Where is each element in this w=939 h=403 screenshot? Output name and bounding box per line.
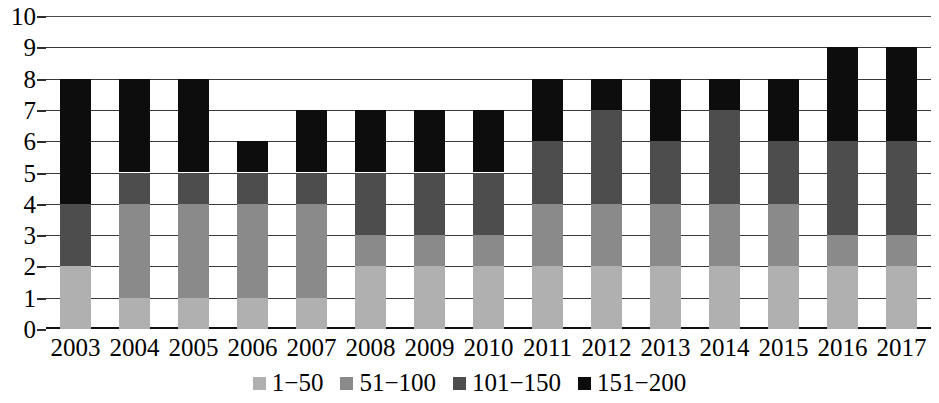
bar-segment — [650, 79, 681, 142]
legend-item[interactable]: 1−50 — [253, 370, 324, 395]
y-tick-mark-7 — [37, 110, 46, 112]
bar-segment — [60, 266, 91, 329]
bar-segment — [591, 79, 622, 110]
bar-segment — [178, 79, 209, 173]
bar-segment — [355, 235, 386, 266]
bar-segment — [296, 298, 327, 329]
bar-segment — [296, 110, 327, 173]
bar-segment — [119, 173, 150, 204]
y-tick-mark-6 — [37, 141, 46, 143]
bar-column — [591, 16, 622, 329]
x-axis-tick-label: 2006 — [228, 333, 278, 363]
x-axis-tick-label: 2008 — [346, 333, 396, 363]
y-tick-mark-1 — [37, 298, 46, 300]
x-axis-tick-label: 2009 — [405, 333, 455, 363]
legend-item[interactable]: 51−100 — [340, 370, 436, 395]
x-axis-labels: 2003200420052006200720082009201020112012… — [46, 333, 931, 365]
x-axis-tick-label: 2017 — [877, 333, 927, 363]
x-axis-tick-label: 2014 — [700, 333, 750, 363]
bar-column — [60, 16, 91, 329]
bar-column — [355, 16, 386, 329]
bar-segment — [886, 266, 917, 329]
bar-column — [650, 16, 681, 329]
bar-segment — [237, 298, 268, 329]
x-axis-tick-label: 2003 — [51, 333, 101, 363]
x-axis-tick-label: 2016 — [818, 333, 868, 363]
legend-swatch-icon — [253, 377, 266, 390]
chart-legend: 1−5051−100101−150151−200 — [0, 370, 939, 395]
bar-segment — [414, 235, 445, 266]
bar-segment — [473, 173, 504, 236]
bar-segment — [709, 110, 740, 204]
bar-column — [709, 16, 740, 329]
bar-segment — [355, 266, 386, 329]
y-axis-tick-label: 0 — [24, 317, 37, 342]
bar-segment — [473, 110, 504, 173]
y-tick-mark-10 — [37, 16, 46, 18]
bar-segment — [650, 141, 681, 204]
y-axis-tick-label: 2 — [24, 254, 37, 279]
bar-segment — [237, 173, 268, 204]
bar-column — [532, 16, 563, 329]
bar-segment — [886, 47, 917, 141]
bar-segment — [60, 204, 91, 267]
x-axis-tick-label: 2005 — [169, 333, 219, 363]
bar-column — [827, 16, 858, 329]
x-axis-tick-label: 2015 — [759, 333, 809, 363]
y-tick-mark-2 — [37, 266, 46, 268]
x-axis-tick-label: 2012 — [582, 333, 632, 363]
bar-segment — [886, 235, 917, 266]
legend-label: 101−150 — [472, 370, 561, 395]
bar-segment — [119, 298, 150, 329]
bar-segment — [414, 110, 445, 173]
legend-swatch-icon — [340, 377, 353, 390]
bar-column — [119, 16, 150, 329]
legend-swatch-icon — [578, 377, 591, 390]
bar-segment — [650, 266, 681, 329]
bar-segment — [591, 266, 622, 329]
bar-segment — [827, 141, 858, 235]
x-axis-tick-label: 2004 — [110, 333, 160, 363]
bar-segment — [355, 110, 386, 173]
bar-segment — [178, 173, 209, 204]
legend-swatch-icon — [453, 377, 466, 390]
x-axis-tick-label: 2007 — [287, 333, 337, 363]
bar-column — [886, 16, 917, 329]
y-axis-tick-label: 6 — [24, 129, 37, 154]
bar-segment — [591, 110, 622, 204]
bar-segment — [709, 266, 740, 329]
y-tick-mark-9 — [37, 47, 46, 49]
y-axis-tick-label: 10 — [11, 4, 36, 29]
bar-segment — [355, 173, 386, 236]
bar-segment — [119, 79, 150, 173]
y-tick-mark-5 — [37, 173, 46, 175]
y-axis-tick-label: 7 — [24, 97, 37, 122]
bar-segment — [237, 204, 268, 298]
bar-segment — [709, 79, 740, 110]
legend-label: 151−200 — [597, 370, 686, 395]
legend-item[interactable]: 151−200 — [578, 370, 686, 395]
bar-segment — [532, 266, 563, 329]
legend-label: 1−50 — [272, 370, 324, 395]
y-axis-tick-label: 4 — [24, 191, 37, 216]
y-axis-tick-label: 8 — [24, 66, 37, 91]
bar-column — [237, 16, 268, 329]
stacked-bar-chart: 012345678910 200320042005200620072008200… — [0, 0, 939, 403]
bars-layer — [46, 16, 931, 329]
legend-item[interactable]: 101−150 — [453, 370, 561, 395]
bar-segment — [768, 266, 799, 329]
y-tick-mark-3 — [37, 235, 46, 237]
bar-segment — [650, 204, 681, 267]
bar-segment — [768, 204, 799, 267]
bar-segment — [532, 204, 563, 267]
x-axis-tick-label: 2010 — [464, 333, 514, 363]
bar-column — [768, 16, 799, 329]
bar-segment — [768, 141, 799, 204]
y-axis-tick-label: 3 — [24, 223, 37, 248]
bar-segment — [532, 79, 563, 142]
bar-segment — [473, 266, 504, 329]
bar-segment — [473, 235, 504, 266]
bar-segment — [414, 266, 445, 329]
bar-segment — [709, 204, 740, 267]
bar-segment — [886, 141, 917, 235]
